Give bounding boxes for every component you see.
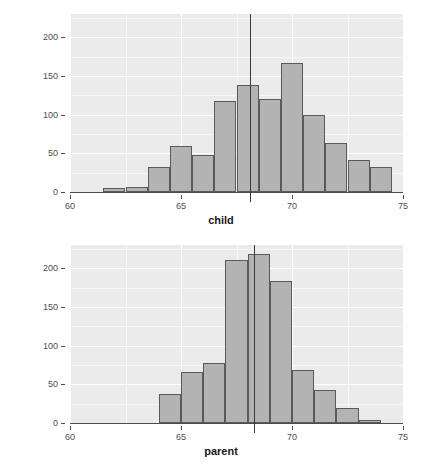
histogram-bar xyxy=(214,101,236,192)
mean-vertical-line xyxy=(254,245,255,433)
histogram-bar xyxy=(225,260,247,423)
histogram-bar xyxy=(148,167,170,192)
histogram-bar xyxy=(303,115,325,192)
histogram-bar xyxy=(170,146,192,192)
y-tick-mark xyxy=(61,384,65,385)
histogram-bar xyxy=(281,63,303,192)
y-tick-mark xyxy=(61,268,65,269)
histogram-bar xyxy=(325,143,347,192)
gridline-minor-vertical xyxy=(126,245,127,423)
y-tick-label: 200 xyxy=(24,263,58,273)
gridline-major-vertical xyxy=(70,14,71,192)
plot-area xyxy=(70,245,403,423)
y-tick-mark xyxy=(61,423,65,424)
y-tick-label: 200 xyxy=(24,32,58,42)
plot-area xyxy=(70,14,403,192)
x-tick-label: 70 xyxy=(272,201,312,211)
x-tick-mark xyxy=(70,195,71,199)
histogram-bar xyxy=(259,99,281,192)
x-tick-mark xyxy=(403,195,404,199)
chart-panel-child: 05010015020060657075child xyxy=(0,0,442,240)
histogram-bar xyxy=(314,390,336,423)
y-tick-mark xyxy=(61,346,65,347)
y-tick-mark xyxy=(61,192,65,193)
histogram-bar xyxy=(336,408,358,423)
histogram-bar xyxy=(248,254,270,423)
x-tick-mark xyxy=(181,426,182,430)
y-tick-label: 150 xyxy=(24,302,58,312)
histogram-bar xyxy=(203,363,225,423)
x-tick-label: 70 xyxy=(272,432,312,442)
mean-vertical-line xyxy=(250,14,251,202)
x-tick-mark xyxy=(292,426,293,430)
gridline-minor-vertical xyxy=(126,14,127,192)
y-tick-mark xyxy=(61,37,65,38)
histogram-bar xyxy=(292,370,314,423)
x-axis-line xyxy=(70,423,403,424)
y-tick-label: 100 xyxy=(24,110,58,120)
y-tick-label: 150 xyxy=(24,71,58,81)
histogram-bar xyxy=(270,281,292,423)
y-tick-mark xyxy=(61,76,65,77)
x-tick-label: 60 xyxy=(50,432,90,442)
y-tick-label: 50 xyxy=(24,379,58,389)
x-tick-mark xyxy=(70,426,71,430)
histogram-bar xyxy=(192,155,214,192)
gridline-minor-vertical xyxy=(348,245,349,423)
histogram-bar xyxy=(237,85,259,192)
y-tick-mark xyxy=(61,307,65,308)
histogram-bar xyxy=(159,394,181,423)
y-tick-label: 100 xyxy=(24,341,58,351)
gridline-major-vertical xyxy=(70,245,71,423)
x-tick-mark xyxy=(292,195,293,199)
y-tick-mark xyxy=(61,115,65,116)
histogram-bar xyxy=(348,160,370,192)
x-tick-label: 60 xyxy=(50,201,90,211)
y-tick-label: 0 xyxy=(24,418,58,428)
y-tick-mark xyxy=(61,153,65,154)
x-axis-line xyxy=(70,192,403,193)
y-tick-label: 0 xyxy=(24,187,58,197)
x-tick-mark xyxy=(403,426,404,430)
x-tick-label: 75 xyxy=(383,432,423,442)
x-tick-label: 75 xyxy=(383,201,423,211)
x-tick-label: 65 xyxy=(161,201,201,211)
gridline-major-vertical xyxy=(403,245,404,423)
x-tick-mark xyxy=(181,195,182,199)
histogram-bar xyxy=(181,372,203,423)
gridline-major-vertical xyxy=(403,14,404,192)
x-tick-label: 65 xyxy=(161,432,201,442)
histogram-bar xyxy=(370,167,392,192)
x-axis-title: child xyxy=(0,214,442,226)
figure-root: 05010015020060657075child 05010015020060… xyxy=(0,0,442,473)
chart-panel-parent: 05010015020060657075parent xyxy=(0,240,442,473)
x-axis-title: parent xyxy=(0,445,442,457)
y-tick-label: 50 xyxy=(24,148,58,158)
